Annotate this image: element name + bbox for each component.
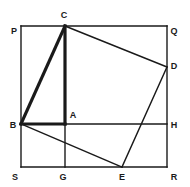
vertex-label-Q: Q — [170, 27, 177, 36]
vertex-label-A: A — [70, 111, 77, 120]
geometry-canvas — [0, 0, 190, 187]
vertex-label-R: R — [171, 173, 178, 182]
thin-lines-group — [21, 26, 167, 167]
thick-lines-group — [21, 26, 65, 124]
vertex-label-E: E — [119, 173, 125, 182]
vertex-label-C: C — [61, 11, 68, 20]
vertex-label-D: D — [171, 62, 178, 71]
vertex-label-G: G — [59, 173, 66, 182]
vertex-label-B: B — [10, 121, 17, 130]
vertex-label-S: S — [12, 173, 18, 182]
vertex-label-P: P — [11, 27, 17, 36]
quad-side-BC — [21, 26, 65, 124]
quad-side-CD — [65, 26, 167, 67]
quad-side-EB — [21, 124, 122, 167]
vertex-label-H: H — [171, 121, 178, 130]
quad-side-DE — [122, 67, 167, 167]
geometry-figure: PCQDABHSGER — [0, 0, 190, 187]
